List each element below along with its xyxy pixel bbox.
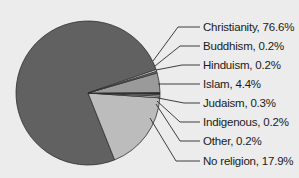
label-islam: Islam, 4.4% — [203, 78, 261, 90]
pie-chart: Christianity, 76.6% Buddhism, 0.2% Hindu… — [0, 0, 299, 178]
slice-labels: Christianity, 76.6% Buddhism, 0.2% Hindu… — [203, 21, 294, 167]
pie-slices — [16, 21, 160, 165]
label-buddhism: Buddhism, 0.2% — [203, 40, 284, 52]
leader-line-hinduism — [156, 65, 200, 70]
label-other: Other, 0.2% — [203, 135, 262, 147]
leader-line-christianity — [153, 27, 200, 61]
label-judaism: Judaism, 0.3% — [203, 97, 276, 109]
leader-line-other — [156, 104, 200, 141]
leader-line-no-religion — [150, 118, 200, 161]
label-hinduism: Hinduism, 0.2% — [203, 59, 281, 71]
label-indigenous: Indigenous, 0.2% — [203, 116, 289, 128]
leader-line-indigenous — [157, 101, 200, 122]
leader-line-judaism — [158, 98, 200, 103]
label-christianity: Christianity, 76.6% — [203, 21, 294, 33]
label-no-religion: No religion, 17.9% — [203, 155, 293, 167]
